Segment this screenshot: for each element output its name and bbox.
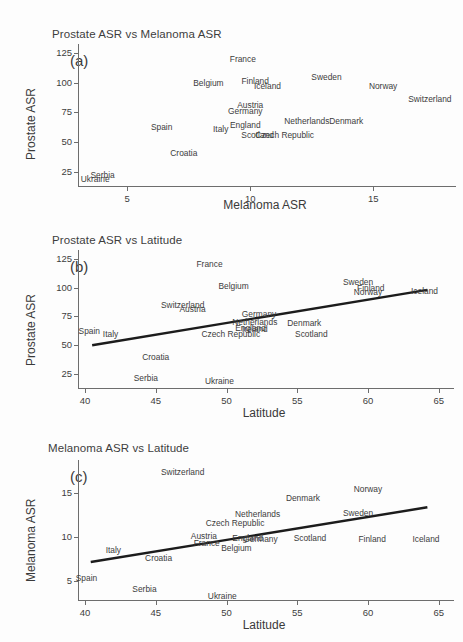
- y-tick-label: 125: [44, 253, 72, 264]
- point-label: Sweden: [311, 72, 341, 80]
- point-label: Scotland: [294, 534, 327, 542]
- panel-title: Melanoma ASR vs Latitude: [48, 442, 189, 454]
- y-tick-label: 125: [44, 47, 72, 58]
- x-tick: [439, 389, 440, 393]
- x-axis: [78, 186, 456, 187]
- y-axis-title: Melanoma ASR: [24, 499, 38, 582]
- point-label: Czech Republic: [255, 131, 314, 139]
- y-tick-label: 50: [44, 339, 72, 350]
- x-tick: [368, 389, 369, 393]
- y-tick: [74, 374, 78, 375]
- point-label: Iceland: [411, 287, 438, 295]
- point-label: Ukraine: [81, 175, 110, 183]
- point-label: Italy: [106, 545, 121, 553]
- point-label: Italy: [213, 125, 228, 133]
- point-label: Czech Republic: [206, 519, 265, 527]
- x-tick: [227, 389, 228, 393]
- point-label: Croatia: [145, 554, 172, 562]
- point-label: Norway: [354, 485, 382, 493]
- y-tick-label: 10: [44, 531, 72, 542]
- x-tick: [156, 389, 157, 393]
- y-tick: [74, 316, 78, 317]
- x-tick-label: 50: [212, 395, 242, 406]
- x-axis-title: Melanoma ASR: [78, 198, 452, 212]
- point-label: Sweden: [343, 509, 373, 517]
- y-tick-label: 5: [44, 575, 72, 586]
- x-axis: [78, 388, 454, 389]
- point-label: Norway: [354, 288, 382, 296]
- y-tick-label: 15: [44, 487, 72, 498]
- x-tick-label: 60: [353, 607, 383, 618]
- point-label: Denmark: [329, 116, 363, 124]
- point-label: Denmark: [286, 493, 320, 501]
- x-tick: [85, 389, 86, 393]
- y-axis: [78, 250, 79, 388]
- point-label: Spain: [151, 122, 172, 130]
- x-tick: [85, 601, 86, 605]
- y-tick-label: 75: [44, 106, 72, 117]
- panel-c: Melanoma ASR vs Latitude(c)5101540455055…: [0, 430, 463, 642]
- point-label: France: [194, 538, 220, 546]
- x-tick-label: 65: [424, 395, 454, 406]
- point-label: Croatia: [142, 353, 169, 361]
- point-label: Norway: [369, 82, 397, 90]
- x-tick: [373, 187, 374, 191]
- point-label: Iceland: [254, 82, 281, 90]
- y-tick: [74, 112, 78, 113]
- point-label: Austria: [180, 305, 206, 313]
- y-tick: [74, 345, 78, 346]
- x-tick: [250, 187, 251, 191]
- y-tick: [74, 537, 78, 538]
- point-label: Denmark: [287, 319, 321, 327]
- y-tick: [74, 493, 78, 494]
- y-tick-label: 100: [44, 77, 72, 88]
- point-label: Finland: [358, 535, 385, 543]
- point-label: Croatia: [170, 148, 197, 156]
- panel-tag: (a): [70, 52, 88, 69]
- y-tick: [74, 83, 78, 84]
- y-tick: [74, 142, 78, 143]
- x-tick-label: 45: [141, 607, 171, 618]
- x-axis-title: Latitude: [78, 406, 450, 420]
- x-tick: [297, 389, 298, 393]
- x-tick-label: 55: [282, 395, 312, 406]
- x-tick: [439, 601, 440, 605]
- point-label: Serbia: [134, 373, 158, 381]
- point-label: Netherlands: [284, 116, 329, 124]
- point-label: Belgium: [193, 78, 223, 86]
- point-label: France: [196, 260, 222, 268]
- x-tick: [156, 601, 157, 605]
- x-tick: [227, 601, 228, 605]
- y-tick: [74, 172, 78, 173]
- x-tick-label: 55: [282, 607, 312, 618]
- point-label: Iceland: [412, 535, 439, 543]
- panel-tag: (b): [70, 258, 88, 275]
- y-tick-label: 100: [44, 282, 72, 293]
- x-tick-label: 45: [141, 395, 171, 406]
- y-tick-label: 25: [44, 166, 72, 177]
- point-label: Scotland: [295, 330, 328, 338]
- x-axis: [78, 600, 454, 601]
- x-tick-label: 50: [212, 607, 242, 618]
- x-tick: [127, 187, 128, 191]
- x-axis-title: Latitude: [78, 618, 450, 632]
- panel-b: Prostate ASR vs Latitude(b)2550751001254…: [0, 220, 463, 430]
- point-label: Serbia: [132, 585, 156, 593]
- figure-three-scatter-panels: Prostate ASR vs Melanoma ASR(a)255075100…: [0, 0, 463, 642]
- y-axis: [78, 44, 79, 186]
- y-tick: [74, 288, 78, 289]
- x-tick-label: 65: [424, 607, 454, 618]
- point-label: Ukraine: [208, 591, 237, 599]
- point-label: Spain: [76, 574, 97, 582]
- point-label: Ukraine: [205, 377, 234, 385]
- y-axis-title: Prostate ASR: [24, 88, 38, 160]
- point-label: France: [230, 55, 256, 63]
- y-tick: [74, 53, 78, 54]
- point-label: Germany: [228, 107, 262, 115]
- x-tick-label: 40: [70, 395, 100, 406]
- panel-title: Prostate ASR vs Latitude: [52, 234, 182, 246]
- y-tick-label: 25: [44, 368, 72, 379]
- y-tick-label: 75: [44, 310, 72, 321]
- x-tick: [297, 601, 298, 605]
- x-tick-label: 40: [70, 607, 100, 618]
